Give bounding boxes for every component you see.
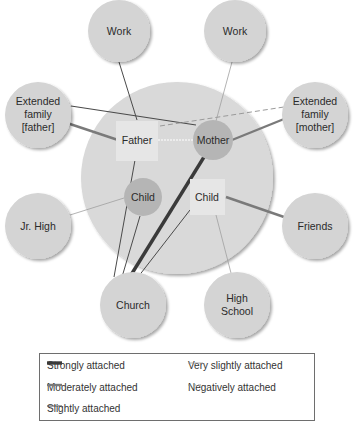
- svg-text:Extended: Extended: [16, 95, 61, 107]
- strong-line-swatch-icon: [47, 360, 62, 366]
- household-circle: [81, 82, 273, 274]
- svg-text:Friends: Friends: [297, 220, 332, 232]
- system-jr-high[interactable]: Jr. High: [5, 193, 71, 259]
- svg-text:Work: Work: [107, 25, 132, 37]
- legend-item-negatively: Negatively attached: [188, 382, 276, 393]
- slight-line-swatch-icon: [47, 403, 62, 409]
- svg-text:family: family: [24, 108, 52, 120]
- legend: Strongly attached Moderately attached Sl…: [39, 353, 315, 421]
- system-work-left[interactable]: Work: [88, 0, 150, 62]
- moderate-line-swatch-icon: [47, 382, 62, 388]
- legend-item-slightly: Slightly attached: [47, 403, 120, 414]
- legend-item-very-slightly: Very slightly attached: [188, 360, 283, 371]
- system-high-school[interactable]: High School: [204, 272, 270, 338]
- legend-item-strongly: Strongly attached: [47, 360, 125, 371]
- svg-text:Jr. High: Jr. High: [20, 220, 56, 232]
- system-extended-family-mother[interactable]: Extended family [mother]: [282, 82, 348, 148]
- svg-text:family: family: [301, 108, 329, 120]
- svg-text:Church: Church: [116, 299, 150, 311]
- negative-line-swatch-icon: [188, 382, 203, 388]
- system-work-right[interactable]: Work: [204, 0, 266, 62]
- svg-text:Extended: Extended: [293, 95, 338, 107]
- svg-text:[father]: [father]: [22, 121, 55, 133]
- svg-text:[mother]: [mother]: [296, 121, 335, 133]
- svg-text:High: High: [226, 292, 248, 304]
- system-church[interactable]: Church: [100, 272, 166, 338]
- child-right-label: Child: [195, 191, 219, 203]
- mother-label: Mother: [197, 134, 230, 146]
- svg-text:School: School: [221, 305, 253, 317]
- father-label: Father: [122, 134, 153, 146]
- very-slight-line-swatch-icon: [188, 360, 203, 366]
- legend-item-moderately: Moderately attached: [47, 382, 138, 393]
- svg-text:Work: Work: [223, 25, 248, 37]
- system-friends[interactable]: Friends: [282, 193, 348, 259]
- system-extended-family-father[interactable]: Extended family [father]: [5, 82, 71, 148]
- child-left-label: Child: [131, 191, 155, 203]
